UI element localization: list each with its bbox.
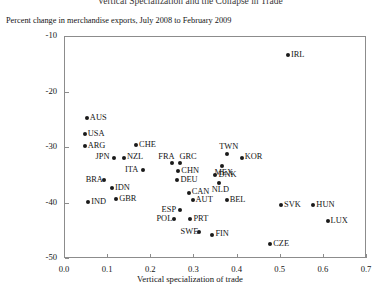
y-tick-label: -20	[31, 86, 57, 96]
data-point-label: NZL	[127, 153, 143, 161]
data-point-label: AUS	[90, 114, 107, 122]
data-point-label: CHE	[139, 141, 156, 149]
y-tick-label: -40	[31, 197, 57, 207]
x-tick-label: 0.6	[308, 264, 338, 274]
data-point	[240, 156, 244, 160]
data-point-label: IDN	[115, 184, 130, 192]
data-point-label: PRT	[193, 215, 208, 223]
x-axis-title: Vertical specialization of trade	[0, 274, 380, 284]
data-point	[134, 143, 138, 147]
x-tick-mark	[107, 254, 108, 258]
data-point-label: NLD	[212, 186, 229, 194]
y-tick-label: -50	[31, 252, 57, 262]
data-point	[187, 191, 191, 195]
data-point-label: LUX	[331, 217, 348, 225]
y-tick-label: -30	[31, 141, 57, 151]
data-point-label: BEL	[230, 196, 246, 204]
x-tick-mark	[366, 254, 367, 258]
data-point-label: IRL	[291, 51, 305, 59]
data-point	[178, 208, 182, 212]
y-tick-mark	[65, 258, 69, 259]
data-point-label: POL	[156, 215, 172, 223]
x-tick-label: 0.4	[222, 264, 252, 274]
data-point	[85, 116, 89, 120]
data-point-label: CZE	[273, 240, 289, 248]
data-point	[112, 156, 116, 160]
data-point-label: JPN	[96, 153, 110, 161]
data-point	[110, 186, 114, 190]
y-tick-mark	[65, 147, 69, 148]
x-tick-label: 0.2	[135, 264, 165, 274]
x-tick-mark	[193, 254, 194, 258]
data-point	[122, 156, 126, 160]
data-point	[225, 198, 229, 202]
data-point	[286, 53, 290, 57]
scatter-chart: Vertical Specialization and the Collapse…	[0, 0, 380, 294]
data-point-label: ESP	[162, 206, 176, 214]
x-tick-label: 0.0	[49, 264, 79, 274]
x-tick-label: 0.5	[265, 264, 295, 274]
data-point	[170, 161, 174, 165]
data-point-label: DNK	[218, 171, 236, 179]
chart-subtitle: Percent change in merchandise exports, J…	[6, 16, 231, 25]
y-tick-mark	[65, 203, 69, 204]
data-point-label: BRA	[86, 176, 103, 184]
data-point-label: GRC	[179, 153, 196, 161]
data-point	[83, 132, 87, 136]
data-point-label: SWE	[181, 228, 199, 236]
x-tick-mark	[64, 254, 65, 258]
x-tick-mark	[280, 254, 281, 258]
x-tick-mark	[237, 254, 238, 258]
chart-title: Vertical Specialization and the Collapse…	[0, 0, 380, 6]
x-tick-label: 0.3	[178, 264, 208, 274]
data-point-label: FIN	[215, 230, 229, 238]
data-point-label: USA	[88, 130, 105, 138]
x-tick-mark	[323, 254, 324, 258]
y-tick-mark	[65, 92, 69, 93]
data-point	[191, 198, 195, 202]
plot-area	[64, 36, 366, 258]
data-point-label: KOR	[245, 153, 263, 161]
data-point-label: IND	[91, 198, 106, 206]
data-point	[225, 152, 229, 156]
data-point-label: ARG	[88, 142, 106, 150]
x-tick-mark	[150, 254, 151, 258]
data-point	[279, 203, 283, 207]
data-point-label: TWN	[219, 143, 238, 151]
data-point-label: SVK	[284, 201, 301, 209]
x-tick-label: 0.1	[92, 264, 122, 274]
y-tick-label: -10	[31, 30, 57, 40]
data-point-label: DEU	[180, 176, 197, 184]
data-point-label: AUT	[196, 196, 213, 204]
data-point-label: GBR	[119, 195, 136, 203]
x-tick-label: 0.7	[351, 264, 380, 274]
data-point-label: FRA	[158, 153, 174, 161]
y-tick-mark	[65, 36, 69, 37]
data-point-label: HUN	[316, 201, 334, 209]
data-point-label: ITA	[125, 166, 138, 174]
